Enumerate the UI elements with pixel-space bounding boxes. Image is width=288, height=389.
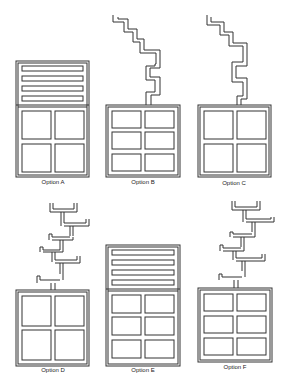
option-c-diagram (198, 15, 271, 177)
option-a-diagram (16, 61, 89, 177)
option-c-label: Option C (194, 180, 274, 186)
option-b-diagram (106, 15, 180, 177)
option-e-diagram (106, 245, 180, 366)
option-d-diagram (16, 203, 89, 366)
option-b-label: Option B (103, 179, 183, 185)
option-e-label: Option E (103, 367, 183, 373)
option-d-label: Option D (13, 367, 93, 373)
option-f-label: Option F (195, 364, 275, 370)
option-a-label: Option A (13, 179, 93, 185)
diagram-canvas (0, 0, 288, 389)
option-f-diagram (198, 201, 274, 362)
